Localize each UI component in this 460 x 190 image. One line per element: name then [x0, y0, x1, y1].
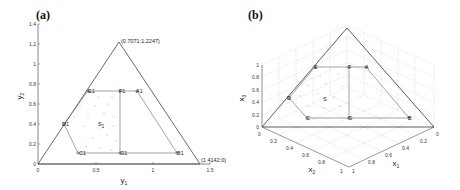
x1-axis: [349, 127, 434, 167]
sample-points-3d: [300, 74, 343, 109]
svg-text:1.4: 1.4: [29, 21, 36, 27]
region-label-s: S: [323, 96, 327, 102]
svg-text:0.8: 0.8: [29, 81, 36, 87]
point-label-b: B: [408, 115, 412, 121]
svg-text:1: 1: [352, 168, 355, 174]
point-label-f1: F1: [119, 88, 125, 94]
point-label-e1: E1: [88, 88, 95, 94]
point-label-g1: G1: [120, 150, 127, 156]
point-label-c: C: [306, 115, 310, 121]
svg-text:0.8: 0.8: [252, 74, 259, 80]
y-ticks: 0 0.2 0.4 0.6 0.8 1 1.2 1.4: [29, 21, 40, 167]
svg-text:0: 0: [436, 131, 439, 137]
point-label-c1: C1: [79, 150, 86, 156]
corner-annotation: (1.4142;0): [201, 157, 226, 163]
sample-points: [74, 97, 117, 151]
point-label-a: A: [365, 64, 369, 70]
svg-text:1: 1: [152, 167, 155, 173]
svg-text:0.6: 0.6: [302, 152, 309, 158]
svg-text:0.2: 0.2: [270, 138, 277, 144]
point-label-d: D: [287, 95, 291, 101]
svg-text:0.6: 0.6: [29, 101, 36, 107]
simplex-triangle: [262, 28, 434, 127]
svg-text:0.4: 0.4: [29, 121, 36, 127]
point-label-a1: A1: [136, 88, 143, 94]
point-label-d1: D1: [62, 121, 69, 127]
point-markers: [63, 90, 178, 154]
point-label-e: E: [314, 64, 318, 70]
y-axis-title: y2: [15, 92, 25, 99]
apex-annotation: (0.7071;1.2247): [121, 38, 160, 44]
panel-b-plot: 0 0.2 0.4 0.6 0.8 1 x3 0 0.2 0.4 0.6 0.8…: [230, 0, 460, 190]
svg-text:0.2: 0.2: [29, 141, 36, 147]
svg-text:0.4: 0.4: [252, 99, 259, 105]
svg-text:0.4: 0.4: [286, 145, 293, 151]
svg-text:0: 0: [256, 124, 259, 130]
point-label-g: G: [348, 115, 352, 121]
x3-ticks: 0 0.2 0.4 0.6 0.8 1: [252, 62, 259, 130]
svg-text:0.6: 0.6: [252, 87, 259, 93]
svg-text:0.8: 0.8: [368, 159, 375, 165]
svg-text:1.2: 1.2: [29, 41, 36, 47]
svg-text:0: 0: [258, 131, 261, 137]
x3-axis-title: x3: [237, 94, 247, 101]
region-polygon: [64, 91, 177, 153]
svg-text:1.5: 1.5: [207, 167, 214, 173]
point-label-b1: B1: [177, 150, 184, 156]
x-axis-title: y1: [121, 176, 128, 186]
x2-axis-title: x2: [309, 165, 316, 175]
svg-text:1: 1: [340, 168, 343, 174]
svg-text:0.2: 0.2: [252, 112, 259, 118]
panel-a: (a) 0 0.2 0.4 0.6 0.8 1 1.2 1.4: [0, 0, 230, 190]
outer-triangle: [38, 42, 200, 164]
panel-a-plot: 0 0.2 0.4 0.6 0.8 1 1.2 1.4 0 0.5 1 1.5 …: [0, 0, 230, 190]
svg-text:0.5: 0.5: [93, 167, 100, 173]
x2-axis: [262, 127, 349, 167]
svg-text:0.2: 0.2: [420, 138, 427, 144]
svg-text:0: 0: [37, 167, 40, 173]
panel-b: (b): [230, 0, 460, 190]
x1-axis-title: x1: [393, 159, 400, 169]
svg-text:0.4: 0.4: [402, 145, 409, 151]
svg-text:0.6: 0.6: [385, 152, 392, 158]
svg-text:0.8: 0.8: [318, 159, 325, 165]
x2-ticks: 0 0.2 0.4 0.6 0.8 1: [258, 131, 343, 174]
svg-text:1: 1: [256, 62, 259, 68]
svg-text:1: 1: [33, 61, 36, 67]
